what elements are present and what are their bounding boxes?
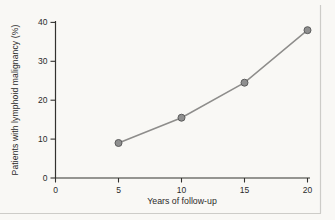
line-chart: 01020304005101520 Years of follow-up Pat… bbox=[0, 0, 335, 220]
y-tick-label: 10 bbox=[38, 134, 48, 144]
x-tick-label: 20 bbox=[303, 185, 313, 195]
data-series bbox=[115, 27, 311, 147]
y-tick-label: 20 bbox=[38, 95, 48, 105]
y-axis-title: Patients with lymphoid malignancy (%) bbox=[10, 25, 20, 176]
x-tick-label: 5 bbox=[116, 185, 121, 195]
axis-ticks: 01020304005101520 bbox=[38, 17, 312, 194]
y-tick-label: 0 bbox=[43, 173, 48, 183]
x-tick-label: 0 bbox=[53, 185, 58, 195]
data-point-marker bbox=[178, 114, 185, 121]
data-point-marker bbox=[115, 139, 122, 146]
data-point-marker bbox=[304, 27, 311, 34]
data-point-marker bbox=[241, 79, 248, 86]
x-tick-label: 10 bbox=[177, 185, 187, 195]
x-tick-label: 15 bbox=[240, 185, 250, 195]
figure-frame bbox=[0, 5, 321, 214]
axes bbox=[56, 21, 311, 178]
series-line bbox=[119, 30, 308, 143]
chart-figure: 01020304005101520 Years of follow-up Pat… bbox=[0, 0, 335, 220]
x-axis-title: Years of follow-up bbox=[147, 196, 217, 206]
y-tick-label: 30 bbox=[38, 56, 48, 66]
y-tick-label: 40 bbox=[38, 17, 48, 27]
